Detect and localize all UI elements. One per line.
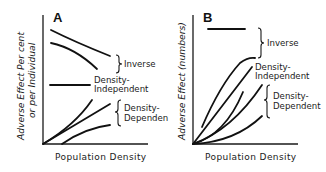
panel-a-y-axis-label-line1: Adverse Effect Per cent <box>15 32 26 141</box>
panel-b-density-independent-label-line2: Independent <box>255 71 310 81</box>
panel-a-density-dependent-brace <box>115 100 121 126</box>
panel-a-inverse-brace <box>116 55 122 73</box>
panel-a-density-dependent-label-line2: Dependen <box>124 113 168 123</box>
panel-b-y-axis-label: Adverse Effect (numbers) <box>176 22 187 141</box>
panel-a-label: A <box>53 10 63 25</box>
panel-a-x-axis-label: Population Density <box>55 152 147 162</box>
panel-a-inverse-curve-1 <box>51 30 110 56</box>
panel-b-inverse-brace <box>258 28 264 58</box>
panel-b-density-dependent-curve-2 <box>193 85 262 144</box>
panel-b: B Adverse Effect (numbers) Inverse Densi… <box>176 10 321 162</box>
panel-a: A Adverse Effect Per cent or per Individ… <box>15 10 168 162</box>
panel-b-label: B <box>203 10 212 25</box>
panel-a-density-dependent-label-line1: Density- <box>124 103 160 113</box>
panel-a-density-dependent-curve-2 <box>43 104 110 144</box>
panel-b-density-dependent-label-line2: Dependent <box>273 101 321 111</box>
panel-b-density-dependent-brace <box>264 85 270 118</box>
panel-a-density-independent-label-line2: Independent <box>94 84 149 94</box>
panel-a-y-axis-label-line2: or per Individual <box>26 42 37 118</box>
density-effect-diagram: A Adverse Effect Per cent or per Individ… <box>0 0 326 172</box>
panel-b-density-dependent-label-line1: Density- <box>273 91 309 101</box>
panel-b-inverse-label: Inverse <box>267 38 299 48</box>
panel-a-inverse-label: Inverse <box>124 59 156 69</box>
panel-a-density-dependent-curve-1 <box>43 100 92 144</box>
panel-b-inverse-curve <box>202 58 255 127</box>
panel-b-density-independent-line <box>193 67 252 144</box>
panel-b-x-axis-label: Population Density <box>205 152 297 162</box>
